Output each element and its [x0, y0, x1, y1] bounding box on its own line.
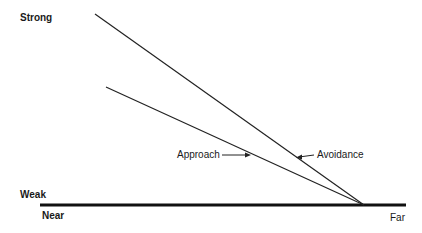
approach-arrow-icon	[222, 153, 251, 158]
diagram-lines	[0, 0, 422, 233]
avoidance-line	[95, 14, 364, 205]
approach-avoidance-diagram: Strong Weak Near Far Approach Avoidance	[0, 0, 422, 233]
weak-label: Weak	[20, 190, 46, 200]
strong-label: Strong	[20, 13, 52, 23]
approach-label: Approach	[177, 150, 220, 160]
avoidance-label: Avoidance	[317, 150, 364, 160]
approach-line	[106, 87, 364, 205]
far-label: Far	[390, 213, 405, 223]
near-label: Near	[42, 211, 64, 221]
